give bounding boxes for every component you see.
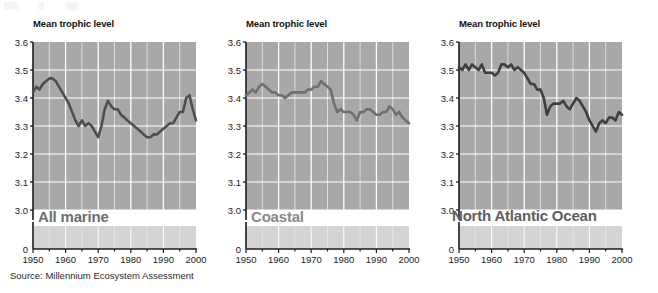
chart-svg-coastal: 3.63.53.43.33.23.13.00195019601970198019… (213, 30, 426, 266)
y-tick-label: 3.5 (441, 65, 454, 76)
plot-area: 3.63.53.43.33.23.13.00195019601970198019… (426, 30, 639, 266)
panel-caption: Coastal (251, 208, 304, 225)
panel-title: Mean trophic level (459, 18, 540, 29)
y-tick-label: 3.2 (228, 149, 241, 160)
panel-title: Mean trophic level (246, 18, 327, 29)
y-tick-label-zero: 0 (236, 244, 241, 255)
scan-artifact (4, 2, 124, 10)
x-tick-label: 2000 (185, 254, 206, 265)
panel-row: Mean trophic level 3.63.53.43.33.23.13.0… (0, 18, 658, 266)
y-tick-label: 3.0 (15, 205, 28, 216)
source-note: Source: Millennium Ecosystem Assessment (10, 270, 194, 281)
x-tick-label: 1980 (546, 254, 567, 265)
x-tick-label: 1980 (333, 254, 354, 265)
panel-north-atlantic-ocean: Mean trophic level 3.63.53.43.33.23.13.0… (426, 18, 639, 266)
x-tick-label: 1970 (301, 254, 322, 265)
y-tick-label: 3.4 (228, 93, 241, 104)
y-tick-label: 3.5 (15, 65, 28, 76)
y-tick-label: 3.6 (441, 37, 454, 48)
panel-caption: North Atlantic Ocean (452, 207, 597, 224)
x-tick-label: 1950 (448, 254, 469, 265)
y-tick-label-zero: 0 (449, 244, 454, 255)
y-tick-label: 3.1 (441, 177, 454, 188)
x-tick-label: 1990 (579, 254, 600, 265)
x-tick-label: 1960 (481, 254, 502, 265)
panel-title: Mean trophic level (33, 18, 114, 29)
panel-all-marine: Mean trophic level 3.63.53.43.33.23.13.0… (0, 18, 213, 266)
y-tick-label: 3.0 (228, 205, 241, 216)
y-tick-label: 3.1 (15, 177, 28, 188)
chart-svg-north-atlantic: 3.63.53.43.33.23.13.00195019601970198019… (426, 30, 639, 266)
x-tick-label: 1970 (88, 254, 109, 265)
y-tick-label: 3.5 (228, 65, 241, 76)
x-tick-label: 2000 (398, 254, 419, 265)
y-tick-label: 3.3 (228, 121, 241, 132)
x-tick-label: 1990 (153, 254, 174, 265)
y-tick-label-zero: 0 (23, 244, 28, 255)
y-tick-label: 3.3 (15, 121, 28, 132)
chart-svg-all-marine: 3.63.53.43.33.23.13.00195019601970198019… (0, 30, 213, 266)
x-tick-label: 1990 (366, 254, 387, 265)
x-tick-label: 2000 (611, 254, 632, 265)
panel-coastal: Mean trophic level 3.63.53.43.33.23.13.0… (213, 18, 426, 266)
y-tick-label: 3.4 (441, 93, 454, 104)
x-tick-label: 1980 (120, 254, 141, 265)
y-tick-label: 3.2 (441, 149, 454, 160)
x-tick-label: 1960 (268, 254, 289, 265)
x-tick-label: 1950 (235, 254, 256, 265)
y-tick-label: 3.6 (15, 37, 28, 48)
panel-caption: All marine (38, 208, 109, 225)
y-tick-label: 3.3 (441, 121, 454, 132)
x-tick-label: 1960 (55, 254, 76, 265)
y-tick-label: 3.4 (15, 93, 28, 104)
figure-root: Mean trophic level 3.63.53.43.33.23.13.0… (0, 0, 658, 293)
y-tick-label: 3.6 (228, 37, 241, 48)
plot-area: 3.63.53.43.33.23.13.00195019601970198019… (213, 30, 426, 266)
x-tick-label: 1970 (514, 254, 535, 265)
plot-area: 3.63.53.43.33.23.13.00195019601970198019… (0, 30, 213, 266)
y-tick-label: 3.2 (15, 149, 28, 160)
x-tick-label: 1950 (22, 254, 43, 265)
y-tick-label: 3.1 (228, 177, 241, 188)
